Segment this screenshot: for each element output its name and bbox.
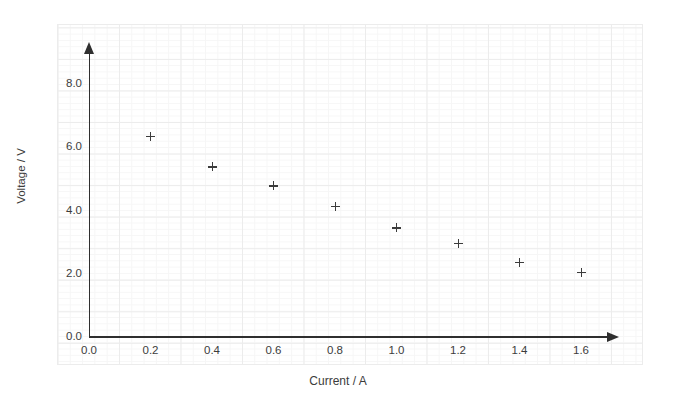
y-tick-label: 0.0	[46, 331, 82, 343]
x-tick-label: 0.8	[315, 344, 355, 356]
x-axis-title: Current / A	[0, 374, 676, 388]
y-axis-title: Voltage / V	[15, 148, 27, 204]
y-tick-label: 2.0	[46, 268, 82, 280]
x-tick-label: 1.4	[500, 344, 540, 356]
x-tick-label: 1.6	[561, 344, 601, 356]
y-axis-ticks: 0.0 2.0 4.0 6.0 8.0	[42, 0, 82, 400]
plot-area	[89, 84, 612, 337]
y-axis-arrowhead-icon	[84, 42, 94, 54]
x-tick-label: 1.0	[377, 344, 417, 356]
y-tick-label: 8.0	[46, 78, 82, 90]
x-tick-label: 0.6	[254, 344, 294, 356]
x-tick-label: 0.2	[131, 344, 171, 356]
y-tick-label: 6.0	[46, 141, 82, 153]
x-tick-label: 0.0	[69, 344, 109, 356]
chart-canvas: 0.0 2.0 4.0 6.0 8.0 0.00.20.40.60.81.01.…	[0, 0, 676, 400]
x-tick-label: 1.2	[438, 344, 478, 356]
y-tick-label: 4.0	[46, 205, 82, 217]
x-tick-label: 0.4	[192, 344, 232, 356]
